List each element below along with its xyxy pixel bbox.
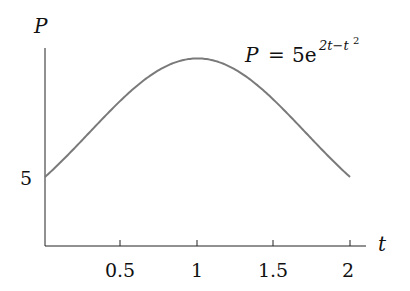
equation-annotation: P = 5e 2t−t 2: [244, 35, 359, 67]
x-tick-label: 0.5: [105, 259, 135, 281]
svg-text:2t−t: 2t−t: [318, 38, 349, 53]
x-tick-label: 2: [342, 259, 354, 281]
svg-text:=: =: [268, 43, 285, 67]
chart: P t 5 0.5 1 1.5 2 P = 5e 2t−t 2: [0, 0, 410, 291]
curve-line: [45, 58, 350, 177]
svg-text:P: P: [244, 43, 259, 67]
x-tick-label: 1.5: [258, 259, 288, 281]
y-tick-label: 5: [20, 167, 32, 189]
svg-text:5e: 5e: [292, 43, 317, 67]
svg-text:2: 2: [353, 35, 359, 46]
x-ticks: [120, 240, 350, 246]
x-axis-label: t: [378, 232, 387, 256]
x-tick-label: 1: [191, 259, 203, 281]
y-axis-label: P: [33, 14, 48, 38]
